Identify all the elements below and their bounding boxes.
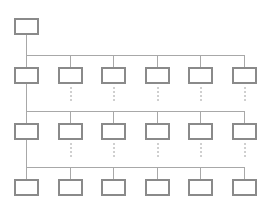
node-box-r2-c2[interactable] xyxy=(59,124,82,139)
node-box-r2-c3[interactable] xyxy=(102,124,125,139)
diagram-canvas xyxy=(0,0,266,215)
node-box-r1-c1[interactable] xyxy=(15,68,38,83)
node-box-r3-c6[interactable] xyxy=(233,180,256,195)
node-box-r3-c5[interactable] xyxy=(189,180,212,195)
node-box-r2-c5[interactable] xyxy=(189,124,212,139)
node-box-r3-c3[interactable] xyxy=(102,180,125,195)
node-box-r1-c4[interactable] xyxy=(146,68,169,83)
node-box-r1-c5[interactable] xyxy=(189,68,212,83)
root-node-box[interactable] xyxy=(15,19,38,34)
node-box-r1-c2[interactable] xyxy=(59,68,82,83)
node-box-r2-c6[interactable] xyxy=(233,124,256,139)
node-box-r3-c4[interactable] xyxy=(146,180,169,195)
node-box-r2-c1[interactable] xyxy=(15,124,38,139)
node-box-r1-c6[interactable] xyxy=(233,68,256,83)
node-box-r3-c2[interactable] xyxy=(59,180,82,195)
hierarchy-diagram xyxy=(0,0,266,215)
node-box-r3-c1[interactable] xyxy=(15,180,38,195)
node-box-r2-c4[interactable] xyxy=(146,124,169,139)
node-box-r1-c3[interactable] xyxy=(102,68,125,83)
